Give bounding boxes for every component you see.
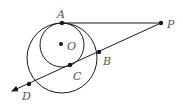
point-o [59, 42, 63, 46]
point-c [68, 63, 72, 67]
label-c: C [73, 70, 82, 83]
label-d: D [21, 90, 31, 103]
large-circle [27, 23, 97, 93]
point-a [60, 21, 64, 25]
label-a: A [56, 8, 65, 21]
point-b [97, 50, 101, 54]
point-d [27, 82, 31, 86]
label-p: P [166, 18, 175, 31]
point-p [159, 21, 163, 25]
geometry-diagram: A O P B C D [0, 0, 183, 108]
label-b: B [102, 55, 111, 68]
label-o: O [67, 40, 76, 53]
